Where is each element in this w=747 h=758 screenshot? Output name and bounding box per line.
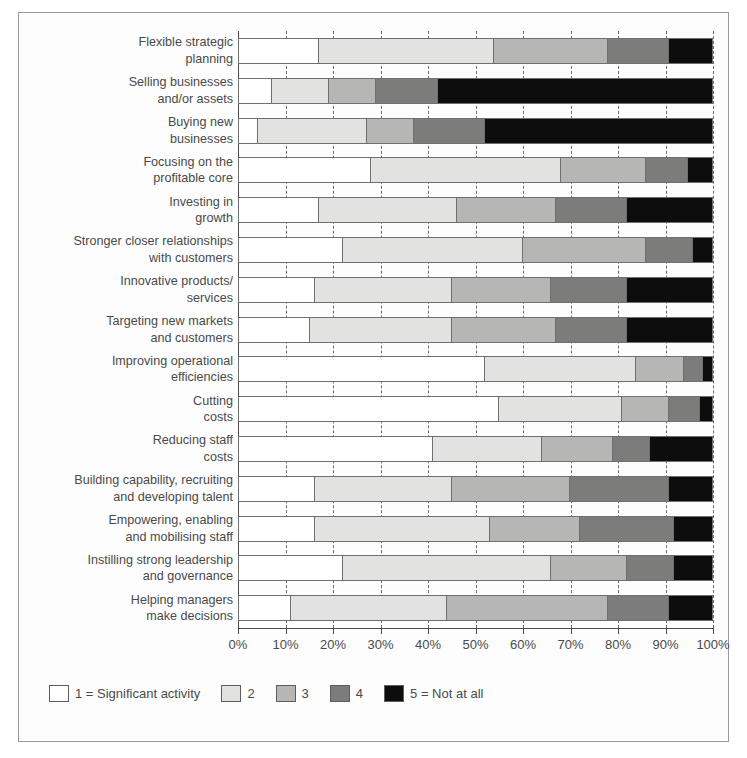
legend-item[interactable]: 4 [330,685,363,702]
bar-segment[interactable] [315,517,490,541]
category-label: Stronger closer relationshipswith custom… [18,233,233,266]
bar-segment[interactable] [239,158,371,182]
bar-segment[interactable] [239,477,315,501]
bar-segment[interactable] [239,198,319,222]
bar-segment[interactable] [674,556,712,580]
bar-segment[interactable] [674,517,712,541]
bar-segment[interactable] [343,556,551,580]
bar-segment[interactable] [414,119,485,143]
stacked-bar[interactable] [238,595,713,621]
bar-segment[interactable] [669,39,712,63]
bar-segment[interactable] [556,318,627,342]
stacked-bar[interactable] [238,157,713,183]
bar-segment[interactable] [239,119,258,143]
chart-row [238,389,713,429]
bar-segment[interactable] [239,238,343,262]
stacked-bar[interactable] [238,356,713,382]
stacked-bar[interactable] [238,237,713,263]
bar-segment[interactable] [669,477,712,501]
bar-segment[interactable] [452,318,556,342]
bar-segment[interactable] [239,357,485,381]
stacked-bar[interactable] [238,396,713,422]
bar-segment[interactable] [239,39,319,63]
bar-segment[interactable] [700,397,712,421]
bar-segment[interactable] [376,79,437,103]
bar-segment[interactable] [627,556,674,580]
stacked-bar[interactable] [238,555,713,581]
legend-item[interactable]: 2 [221,685,254,702]
legend-item[interactable]: 3 [276,685,309,702]
bar-segment[interactable] [457,198,556,222]
stacked-bar[interactable] [238,436,713,462]
bar-segment[interactable] [613,437,651,461]
bar-segment[interactable] [523,238,646,262]
category-label-line: make decisions [18,608,233,625]
category-label-line: Empowering, enabling [18,512,233,529]
bar-segment[interactable] [239,318,310,342]
bar-segment[interactable] [239,397,499,421]
bar-segment[interactable] [239,79,272,103]
bar-segment[interactable] [239,556,343,580]
bar-segment[interactable] [499,397,622,421]
bar-segment[interactable] [485,119,712,143]
bar-segment[interactable] [551,556,627,580]
bar-segment[interactable] [669,596,712,620]
bar-segment[interactable] [452,477,570,501]
bar-segment[interactable] [570,477,669,501]
bar-segment[interactable] [580,517,675,541]
stacked-bar[interactable] [238,38,713,64]
bar-segment[interactable] [343,238,523,262]
bar-segment[interactable] [684,357,703,381]
stacked-bar[interactable] [238,118,713,144]
bar-segment[interactable] [272,79,329,103]
stacked-bar[interactable] [238,197,713,223]
bar-segment[interactable] [319,39,494,63]
bar-segment[interactable] [646,238,693,262]
bar-segment[interactable] [494,39,608,63]
bar-segment[interactable] [310,318,452,342]
bar-segment[interactable] [608,596,669,620]
bar-segment[interactable] [636,357,683,381]
bar-segment[interactable] [367,119,414,143]
bar-segment[interactable] [315,278,452,302]
stacked-bar[interactable] [238,78,713,104]
bar-segment[interactable] [319,198,456,222]
bar-segment[interactable] [433,437,542,461]
bar-segment[interactable] [452,278,551,302]
bar-segment[interactable] [239,517,315,541]
bar-segment[interactable] [490,517,580,541]
bar-segment[interactable] [556,198,627,222]
bar-segment[interactable] [669,397,700,421]
bar-segment[interactable] [703,357,712,381]
bar-segment[interactable] [315,477,452,501]
bar-segment[interactable] [693,238,712,262]
bar-segment[interactable] [627,198,712,222]
legend-item[interactable]: 1 = Significant activity [49,685,200,702]
bar-segment[interactable] [688,158,712,182]
bar-segment[interactable] [551,278,627,302]
stacked-bar[interactable] [238,317,713,343]
bar-segment[interactable] [258,119,367,143]
bar-segment[interactable] [627,278,712,302]
bar-segment[interactable] [329,79,376,103]
bar-segment[interactable] [627,318,712,342]
bar-segment[interactable] [239,596,291,620]
bar-segment[interactable] [646,158,689,182]
bar-segment[interactable] [438,79,712,103]
legend-item[interactable]: 5 = Not at all [384,685,483,702]
bar-segment[interactable] [608,39,669,63]
stacked-bar[interactable] [238,516,713,542]
category-label-line: growth [18,210,233,227]
bar-segment[interactable] [447,596,608,620]
stacked-bar[interactable] [238,277,713,303]
bar-segment[interactable] [561,158,646,182]
bar-segment[interactable] [542,437,613,461]
bar-segment[interactable] [239,278,315,302]
bar-segment[interactable] [371,158,560,182]
bar-segment[interactable] [239,437,433,461]
bar-segment[interactable] [485,357,636,381]
bar-segment[interactable] [650,437,711,461]
stacked-bar[interactable] [238,476,713,502]
bar-segment[interactable] [622,397,669,421]
bar-segment[interactable] [291,596,447,620]
